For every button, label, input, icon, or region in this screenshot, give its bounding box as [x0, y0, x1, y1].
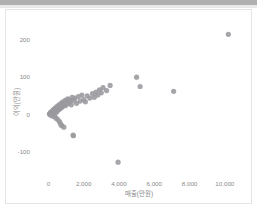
data-point[interactable] [87, 95, 92, 100]
data-point[interactable] [61, 125, 66, 130]
y-axis-title: 이익(만원) [12, 88, 21, 116]
data-point[interactable] [104, 88, 109, 93]
data-point[interactable] [69, 102, 74, 107]
data-point[interactable] [99, 90, 104, 95]
window-chrome-band-shadow [0, 5, 257, 8]
data-point[interactable] [108, 83, 113, 88]
data-point[interactable] [226, 32, 231, 37]
data-point[interactable] [83, 99, 88, 104]
x-tick-label: 8,000 [182, 180, 198, 187]
data-point[interactable] [71, 133, 76, 138]
data-point[interactable] [138, 84, 143, 89]
y-tick-label: 0 [27, 111, 31, 118]
data-point[interactable] [171, 89, 176, 94]
x-axis-tick-labels: 02,0004,0006,0008,00010,000 [47, 180, 235, 187]
y-tick-label: -100 [18, 148, 31, 155]
data-point[interactable] [134, 75, 139, 80]
scatter-plot[interactable]: 2001000-100 02,0004,0006,0008,00010,000 … [6, 10, 251, 203]
x-tick-label: 4,000 [111, 180, 127, 187]
chart-card: 2001000-100 02,0004,0006,0008,00010,000 … [5, 9, 252, 204]
y-tick-label: 100 [20, 73, 31, 80]
data-point[interactable] [115, 160, 120, 165]
x-axis-title: 매출(만원) [125, 189, 153, 198]
data-point-group[interactable] [47, 32, 231, 165]
scatter-plot-canvas[interactable]: 2001000-100 02,0004,0006,0008,00010,000 … [6, 10, 251, 203]
x-tick-label: 2,000 [76, 180, 92, 187]
data-point[interactable] [79, 92, 84, 97]
y-tick-label: 200 [20, 36, 31, 43]
x-tick-label: 10,000 [215, 180, 234, 187]
chart-screenshot: 2001000-100 02,0004,0006,0008,00010,000 … [0, 0, 257, 212]
x-tick-label: 6,000 [146, 180, 162, 187]
x-tick-label: 0 [47, 180, 51, 187]
